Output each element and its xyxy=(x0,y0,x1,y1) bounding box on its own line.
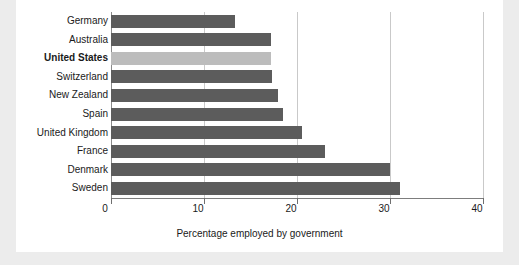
x-tick-label: 10 xyxy=(192,203,203,214)
category-label: France xyxy=(77,142,108,161)
category-label: Germany xyxy=(67,12,108,31)
chart-panel: GermanyAustraliaUnited StatesSwitzerland… xyxy=(16,0,503,252)
category-label: New Zealand xyxy=(49,86,108,105)
x-tick-label: 30 xyxy=(378,203,389,214)
bar xyxy=(111,89,278,102)
category-label: Switzerland xyxy=(56,68,108,87)
bar-row: Sweden xyxy=(16,179,503,198)
bar xyxy=(111,163,390,176)
category-label: Sweden xyxy=(72,179,108,198)
figure-root: GermanyAustraliaUnited StatesSwitzerland… xyxy=(0,0,519,265)
bar-row: Australia xyxy=(16,31,503,50)
bar xyxy=(111,182,400,195)
x-tick-mark xyxy=(297,198,298,204)
category-label: United Kingdom xyxy=(37,124,108,143)
bar xyxy=(111,108,283,121)
plot-area: GermanyAustraliaUnited StatesSwitzerland… xyxy=(16,0,503,252)
bar xyxy=(111,70,272,83)
bar-row: New Zealand xyxy=(16,86,503,105)
x-tick-label: 0 xyxy=(102,203,108,214)
bar-row: Denmark xyxy=(16,161,503,180)
x-tick-mark xyxy=(111,198,112,204)
category-label: United States xyxy=(44,49,108,68)
category-label: Spain xyxy=(82,105,108,124)
bar-rows: GermanyAustraliaUnited StatesSwitzerland… xyxy=(16,12,503,198)
bar xyxy=(111,15,235,28)
bar-row: United Kingdom xyxy=(16,124,503,143)
x-axis-title: Percentage employed by government xyxy=(16,228,503,239)
bar xyxy=(111,126,302,139)
bar-row: United States xyxy=(16,49,503,68)
bar xyxy=(111,52,271,65)
x-tick-mark xyxy=(483,198,484,204)
x-tick-label: 20 xyxy=(285,203,296,214)
x-tick-label: 40 xyxy=(471,203,482,214)
x-tick-mark xyxy=(390,198,391,204)
category-label: Australia xyxy=(69,31,108,50)
bar-row: Spain xyxy=(16,105,503,124)
bar-row: France xyxy=(16,142,503,161)
bar-row: Germany xyxy=(16,12,503,31)
category-label: Denmark xyxy=(67,161,108,180)
bar-row: Switzerland xyxy=(16,68,503,87)
bar xyxy=(111,145,325,158)
bar xyxy=(111,33,271,46)
x-tick-mark xyxy=(204,198,205,204)
